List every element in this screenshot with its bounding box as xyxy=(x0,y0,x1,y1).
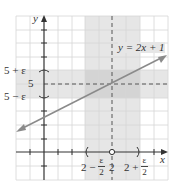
x-label-2-plus-prefix: 2 + xyxy=(124,162,138,173)
x-axis-label: x xyxy=(160,154,165,165)
frac-den: 2 xyxy=(142,168,147,177)
y-label-5: 5 xyxy=(28,78,34,89)
diagram-canvas xyxy=(0,0,175,185)
y-label-5-minus-eps: 5 − ε xyxy=(4,91,26,102)
frac-den: 2 xyxy=(99,168,104,177)
x-label-2: 2 xyxy=(109,162,115,173)
x-label-2-plus-frac: ε 2 xyxy=(141,156,148,177)
frac-num: ε xyxy=(143,156,147,165)
y-label-5-plus-eps: 5 + ε xyxy=(4,65,26,76)
x-label-2-minus-frac: ε 2 xyxy=(98,156,105,177)
open-point-x2 xyxy=(109,149,114,154)
frac-num: ε xyxy=(100,156,104,165)
y-axis-label: y xyxy=(33,13,38,24)
x-label-2-minus-prefix: 2 − xyxy=(81,162,95,173)
function-label: y = 2x + 1 xyxy=(118,42,165,53)
line-arrow-right-icon xyxy=(158,55,167,63)
